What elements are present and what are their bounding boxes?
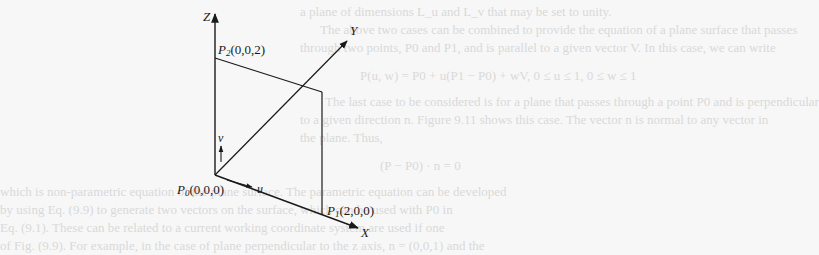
point-p2-label: P2(0,0,2) (218, 43, 265, 60)
u-vector-arrow (227, 180, 252, 187)
u-vector-label: u (257, 183, 263, 196)
x-axis-label: X (361, 226, 369, 239)
plane-edge-top (215, 58, 322, 92)
v-vector-label: v (218, 132, 223, 145)
y-axis-label: Y (350, 24, 357, 37)
point-p1-label: P1(2,0,0) (327, 204, 374, 221)
point-p0-label: P0(0,0,0) (177, 183, 224, 200)
z-axis-label: Z (203, 10, 210, 23)
y-axis (215, 41, 347, 175)
